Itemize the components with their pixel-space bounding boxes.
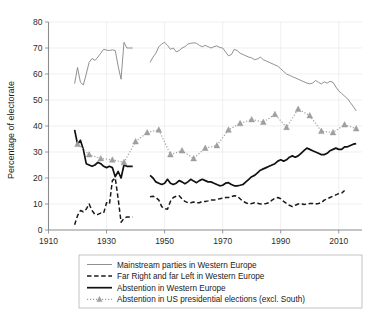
y-tick-label: 0 [38,225,43,235]
x-tick-label: 1910 [39,236,58,246]
y-tick-label: 10 [33,199,43,209]
chart-legend: Mainstream parties in Western EuropeFar … [79,255,362,308]
y-tick-label: 80 [33,17,43,27]
legend-label: Far Right and far Left in Western Europe [117,272,265,281]
y-tick-label: 40 [33,121,43,131]
y-tick-label: 30 [33,147,43,157]
y-axis-title: Percentage of electorate [6,81,16,179]
election-trends-line-chart: 01020304050607080 1910193019501970199020… [0,0,371,323]
chart-figure: 01020304050607080 1910193019501970199020… [0,0,371,323]
y-tick-label: 60 [33,69,43,79]
x-tick-label: 1930 [97,236,116,246]
x-tick-label: 1950 [155,236,174,246]
legend-label: Mainstream parties in Western Europe [117,261,257,270]
x-tick-label: 1990 [271,236,290,246]
y-tick-label: 20 [33,173,43,183]
legend-label: Abstention in US presidential elections … [117,295,305,304]
y-tick-label: 70 [33,43,43,53]
x-tick-label: 2010 [329,236,348,246]
legend-item-4[interactable]: Abstention in US presidential elections … [87,295,305,304]
y-tick-label: 50 [33,95,43,105]
x-tick-label: 1970 [213,236,232,246]
legend-label: Abstention in Western Europe [117,284,226,293]
